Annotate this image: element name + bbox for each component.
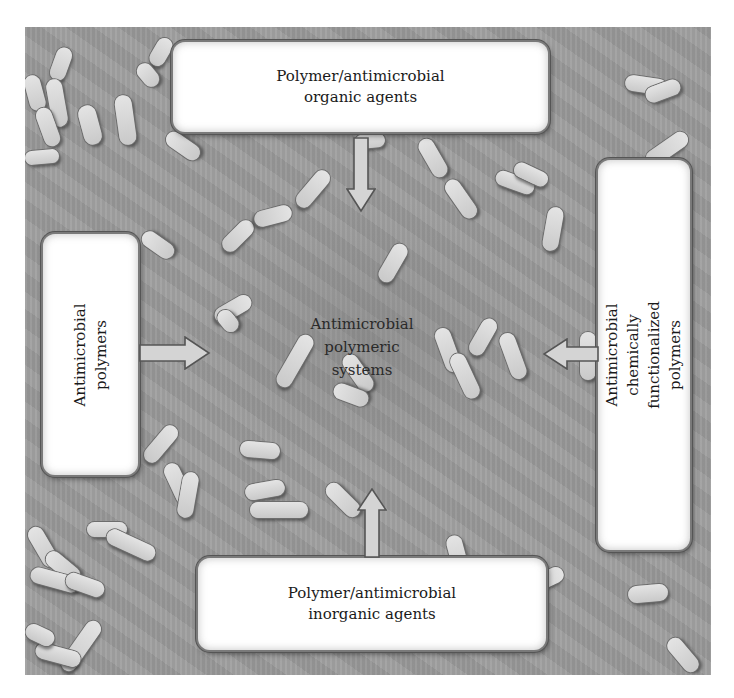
bacterium <box>244 479 286 502</box>
bacterium <box>25 149 60 166</box>
bacterium <box>63 571 106 600</box>
bacterium <box>76 103 104 146</box>
bacterium <box>219 217 257 255</box>
bacterium <box>104 527 158 563</box>
box-inorganic-agents-label: Polymer/antimicrobial inorganic agents <box>288 583 456 625</box>
bacterium <box>58 618 104 675</box>
arrow-right-icon <box>139 336 211 370</box>
arrow-down-icon <box>346 137 376 213</box>
bacterium <box>48 45 75 82</box>
bacterium <box>376 241 411 285</box>
center-label-polymeric-systems: Antimicrobial polymeric systems <box>262 313 462 382</box>
arrow-left-icon <box>543 338 599 370</box>
bacterium <box>497 331 528 382</box>
arrow-up-icon <box>357 488 387 558</box>
bacterium <box>416 136 451 180</box>
bacterium <box>250 502 308 518</box>
bacterium <box>293 167 334 211</box>
box-functionalized-polymers-label: Antimicrobial chemically functionalized … <box>602 301 686 409</box>
box-functionalized-polymers: Antimicrobial chemically functionalized … <box>598 160 690 550</box>
bacterium <box>147 35 176 69</box>
bacterium <box>466 316 500 359</box>
bacterium <box>442 176 480 221</box>
bacterium <box>139 228 178 262</box>
bacterium <box>664 635 702 675</box>
box-antimicrobial-polymers-label: Antimicrobial polymers <box>70 303 112 406</box>
box-organic-agents: Polymer/antimicrobial organic agents <box>173 42 548 132</box>
bacterium <box>627 583 668 603</box>
bacterium <box>541 206 564 252</box>
bacterium <box>163 129 203 164</box>
box-organic-agents-label: Polymer/antimicrobial organic agents <box>276 66 444 108</box>
bacterium <box>141 422 182 466</box>
bacterium <box>239 440 280 459</box>
bacterium <box>114 94 138 146</box>
bacterium <box>253 203 294 228</box>
box-inorganic-agents: Polymer/antimicrobial inorganic agents <box>198 558 546 650</box>
box-antimicrobial-polymers: Antimicrobial polymers <box>43 234 138 475</box>
